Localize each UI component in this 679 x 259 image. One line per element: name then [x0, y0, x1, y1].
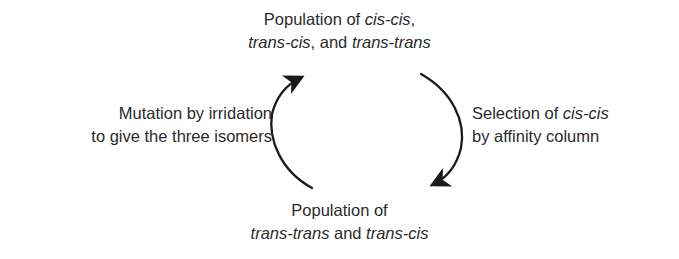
label-top-line2: trans-cis, and trans-trans	[0, 31, 679, 54]
label-top-line2-italic-a: trans-cis	[248, 33, 310, 51]
label-right-line1-italic: cis-cis	[563, 104, 609, 122]
mutation-arrow	[271, 78, 312, 188]
label-top-line1: Population of cis-cis,	[0, 8, 679, 31]
label-top-population: Population of cis-cis, trans-cis, and tr…	[0, 8, 679, 54]
label-bottom-line2-mid: and	[329, 224, 366, 242]
label-bottom-population: Population of trans-trans and trans-cis	[0, 199, 679, 245]
selection-arrow	[421, 74, 462, 184]
label-top-line2-mid: , and	[311, 33, 352, 51]
label-right-line2: by affinity column	[472, 125, 679, 148]
label-right-selection: Selection of cis-cis by affinity column	[472, 102, 679, 148]
label-left-line1: Mutation by irridation	[0, 102, 272, 125]
label-bottom-line2: trans-trans and trans-cis	[0, 222, 679, 245]
label-left-mutation: Mutation by irridation to give the three…	[0, 102, 272, 148]
label-right-line1-plain: Selection of	[472, 104, 563, 122]
label-bottom-line1: Population of	[0, 199, 679, 222]
label-left-line2: to give the three isomers	[0, 125, 272, 148]
label-top-line1-tail: ,	[411, 10, 416, 28]
cycle-diagram: Population of cis-cis, trans-cis, and tr…	[0, 0, 679, 259]
label-bottom-line2-italic-b: trans-cis	[366, 224, 428, 242]
label-bottom-line2-italic-a: trans-trans	[251, 224, 330, 242]
label-right-line1: Selection of cis-cis	[472, 102, 679, 125]
label-top-line1-italic: cis-cis	[365, 10, 411, 28]
label-top-line2-italic-b: trans-trans	[352, 33, 431, 51]
label-top-line1-plain: Population of	[264, 10, 365, 28]
